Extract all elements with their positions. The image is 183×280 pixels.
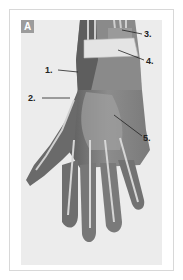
- label-4: 4.: [146, 56, 154, 66]
- panel-letter-badge: A: [21, 20, 34, 33]
- label-2: 2.: [28, 93, 36, 103]
- hand-illustration: [0, 0, 183, 280]
- label-3: 3.: [144, 29, 152, 39]
- label-5: 5.: [143, 133, 151, 143]
- label-1: 1.: [45, 65, 53, 75]
